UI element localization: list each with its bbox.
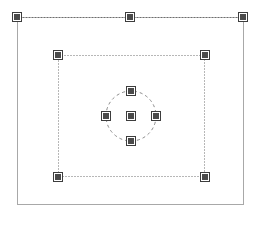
handle-rect-bottom-left[interactable] bbox=[54, 173, 62, 181]
handle-top-left[interactable] bbox=[13, 13, 21, 21]
handle-rect-bottom-right[interactable] bbox=[201, 173, 209, 181]
handle-top-right[interactable] bbox=[239, 13, 247, 21]
handle-circle-bottom[interactable] bbox=[127, 137, 135, 145]
handle-top-center[interactable] bbox=[126, 13, 134, 21]
handle-circle-left[interactable] bbox=[102, 112, 110, 120]
handle-circle-center[interactable] bbox=[127, 112, 135, 120]
canvas-root[interactable]: Selection Handles Canvas bbox=[0, 0, 259, 226]
handle-circle-right[interactable] bbox=[152, 112, 160, 120]
handle-circle-top[interactable] bbox=[127, 87, 135, 95]
handle-rect-top-left[interactable] bbox=[54, 51, 62, 59]
handle-rect-top-right[interactable] bbox=[201, 51, 209, 59]
selection-handle-layer bbox=[0, 0, 259, 226]
